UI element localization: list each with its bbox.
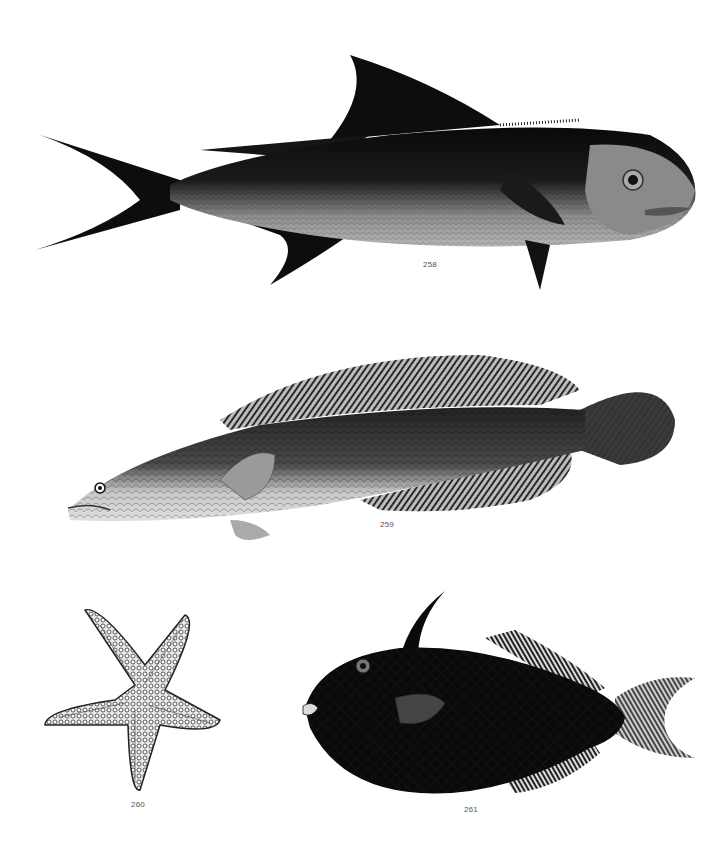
figure-260-starfish xyxy=(40,605,225,795)
figure-label-260: 260 xyxy=(131,800,145,809)
figure-258-fish xyxy=(30,50,710,290)
figure-label-259: 259 xyxy=(380,520,394,529)
fish-258-illustration xyxy=(30,50,710,290)
starfish-260-illustration xyxy=(40,605,225,795)
figure-259-fish xyxy=(60,350,680,550)
fish-261-illustration xyxy=(300,588,700,808)
fish-259-illustration xyxy=(60,350,680,550)
figure-label-258: 258 xyxy=(423,260,437,269)
figure-261-fish xyxy=(300,588,700,808)
figure-label-261: 261 xyxy=(464,805,478,814)
